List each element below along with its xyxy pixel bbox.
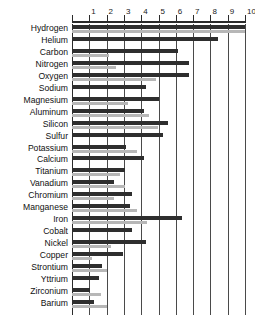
category-label-oxygen: Oxygen [0,72,68,81]
bar-secondary-barium [72,305,107,308]
bar-secondary-manganese [72,209,137,212]
bar-primary-aluminum [72,109,144,113]
chart-row: Sulfur [0,132,255,144]
category-label-magnesium: Magnesium [0,96,68,105]
bar-secondary-chromium [72,197,114,200]
tick-label-8: 8 [212,8,216,16]
tick-label-3: 3 [126,8,130,16]
chart-row: Iron [0,215,255,227]
chart-row: Cobalt [0,227,255,239]
category-label-aluminum: Aluminum [0,108,68,117]
bar-secondary-hydrogen [72,30,245,33]
category-label-copper: Copper [0,251,68,260]
bar-secondary-carbon [72,54,109,57]
category-label-strontium: Strontium [0,263,68,272]
tick-mark-2 [107,15,108,21]
chart-row: Aluminum [0,108,255,120]
bar-secondary-titanium [72,173,120,176]
bar-secondary-strontium [72,269,107,272]
bar-secondary-silicon [72,126,158,129]
bar-secondary-aluminum [72,114,149,117]
category-label-sulfur: Sulfur [0,132,68,141]
tick-label-2: 2 [109,8,113,16]
tick-label-4: 4 [143,8,147,16]
bar-primary-helium [72,37,218,41]
category-label-yttrium: Yttrium [0,275,68,284]
tick-label-9: 9 [230,8,234,16]
bar-primary-titanium [72,168,125,172]
tick-mark-10 [245,15,246,21]
chart-row: Zirconium [0,287,255,299]
chart-row: Silicon [0,120,255,132]
bar-secondary-zirconium [72,293,101,296]
bar-primary-calcium [72,156,144,160]
tick-mark-5 [159,15,160,21]
bar-primary-hydrogen [72,25,245,29]
bar-chart: 12345678910 HydrogenHeliumCarbonNitrogen… [0,0,255,331]
category-label-carbon: Carbon [0,48,68,57]
chart-row: Strontium [0,263,255,275]
category-label-cobalt: Cobalt [0,227,68,236]
bar-primary-sodium [72,85,146,89]
category-label-barium: Barium [0,299,68,308]
bar-primary-zirconium [72,288,90,292]
bar-primary-barium [72,300,94,304]
chart-row: Magnesium [0,96,255,108]
bar-primary-nitrogen [72,61,189,65]
category-label-vanadium: Vanadium [0,179,68,188]
category-label-potassium: Potassium [0,144,68,153]
category-label-manganese: Manganese [0,203,68,212]
category-label-titanium: Titanium [0,167,68,176]
bar-primary-cobalt [72,228,132,232]
bar-primary-manganese [72,204,130,208]
tick-mark-9 [228,15,229,21]
bar-primary-strontium [72,264,102,268]
bar-primary-vanadium [72,180,114,184]
bar-primary-copper [72,252,123,256]
tick-label-5: 5 [161,8,165,16]
bar-primary-carbon [72,49,178,53]
category-label-helium: Helium [0,36,68,45]
tick-label-10: 10 [247,8,255,16]
bar-primary-iron [72,216,182,220]
category-label-iron: Iron [0,215,68,224]
category-label-nitrogen: Nitrogen [0,60,68,69]
tick-mark-6 [176,15,177,21]
bar-secondary-nitrogen [72,66,116,69]
tick-mark-3 [124,15,125,21]
tick-label-6: 6 [178,8,182,16]
tick-mark-1 [89,15,90,21]
bar-secondary-iron [72,221,147,224]
tick-mark-4 [141,15,142,21]
tick-mark-0 [72,15,73,21]
bar-primary-potassium [72,145,126,149]
bar-primary-nickel [72,240,146,244]
tick-label-1: 1 [91,8,95,16]
chart-row: Oxygen [0,72,255,84]
tick-mark-8 [210,15,211,21]
chart-row: Manganese [0,203,255,215]
bar-primary-magnesium [72,97,159,101]
category-label-nickel: Nickel [0,239,68,248]
bar-secondary-oxygen [72,78,156,81]
bar-primary-chromium [72,192,132,196]
bar-secondary-copper [72,257,92,260]
bar-primary-oxygen [72,73,189,77]
category-label-calcium: Calcium [0,155,68,164]
bar-secondary-potassium [72,150,137,153]
bar-primary-silicon [72,121,168,125]
bar-primary-sulfur [72,133,163,137]
bar-secondary-vanadium [72,185,125,188]
category-label-sodium: Sodium [0,84,68,93]
bar-primary-yttrium [72,276,99,280]
chart-row: Nickel [0,239,255,251]
bar-secondary-nickel [72,245,111,248]
bar-secondary-magnesium [72,102,128,105]
x-axis-line [72,21,246,23]
chart-row: Hydrogen [0,24,255,36]
tick-mark-7 [193,15,194,21]
chart-row: Helium [0,36,255,48]
chart-row: Barium [0,299,255,311]
category-label-zirconium: Zirconium [0,287,68,296]
category-label-hydrogen: Hydrogen [0,24,68,33]
